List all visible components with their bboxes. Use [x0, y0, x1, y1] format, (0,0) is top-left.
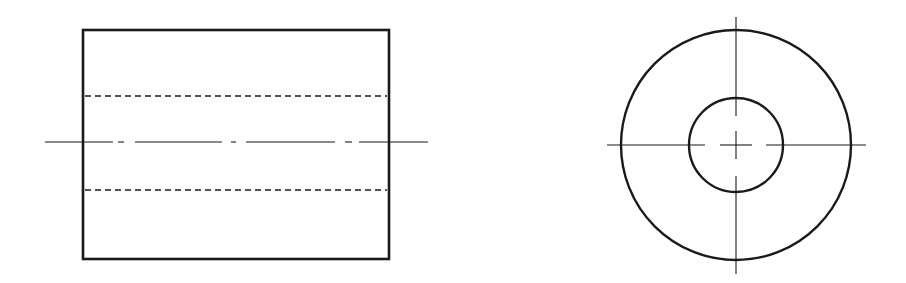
technical-drawing	[0, 0, 906, 283]
